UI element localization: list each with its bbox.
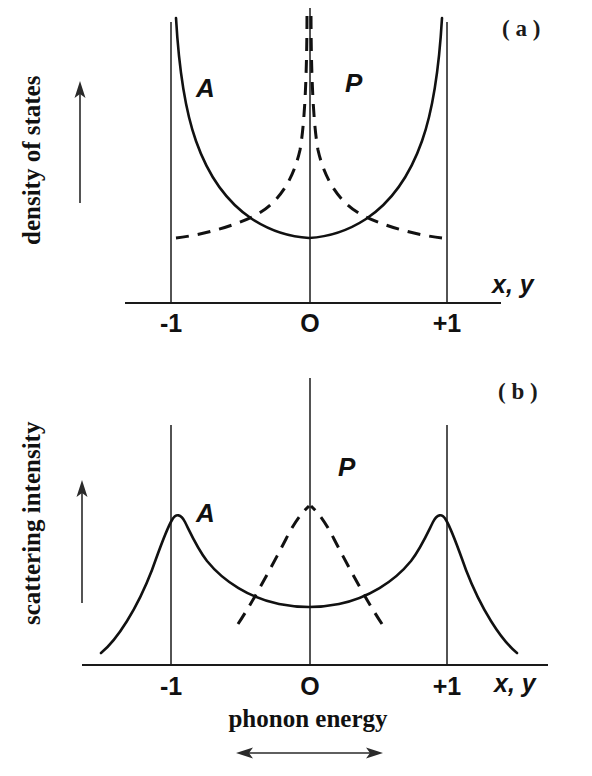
panel-a-y-axis-title: density of states: [18, 75, 45, 245]
phonon-energy-range-arrow: [236, 748, 383, 759]
panel-b-label-P: P: [338, 452, 356, 482]
panel-a-tag: ( a ): [502, 16, 540, 41]
panel-a-curve-P-right: [311, 10, 442, 238]
panel-b-xtick-minus1: -1: [160, 672, 182, 700]
panel-b-xtick-zero: O: [300, 672, 319, 700]
panel-b-tag: ( b ): [498, 379, 538, 404]
panel-b-xtick-plus1: +1: [433, 672, 462, 700]
panel-b-curve-A: [101, 515, 517, 653]
panel-a-label-A: A: [195, 73, 215, 103]
figure-root: density of states A P -1 O +1 x, y ( a ): [0, 0, 592, 776]
panel-b-scattering-intensity-content: scattering intensity A P -1 O +1 x, y ph…: [0, 370, 592, 776]
panel-b-x-axis-variable: x, y: [492, 669, 537, 697]
panel-b-y-axis-arrow: [77, 480, 88, 603]
panel-b-label-A: A: [195, 498, 215, 528]
panel-b-y-axis-title: scattering intensity: [18, 421, 45, 625]
panel-a-density-of-states: density of states A P -1 O +1 x, y ( a ): [0, 0, 592, 370]
panel-a-xtick-plus1: +1: [433, 309, 462, 337]
panel-a-label-P: P: [345, 68, 363, 98]
panel-a-xtick-zero: O: [300, 309, 319, 337]
panel-a-y-axis-arrow: [75, 81, 86, 203]
panel-a-x-axis-variable: x, y: [490, 270, 535, 298]
panel-b-x-axis-caption: phonon energy: [228, 705, 388, 732]
panel-a-curve-A: [176, 18, 442, 238]
panel-a-curve-P-left: [176, 10, 307, 238]
panel-a-xtick-minus1: -1: [160, 309, 182, 337]
